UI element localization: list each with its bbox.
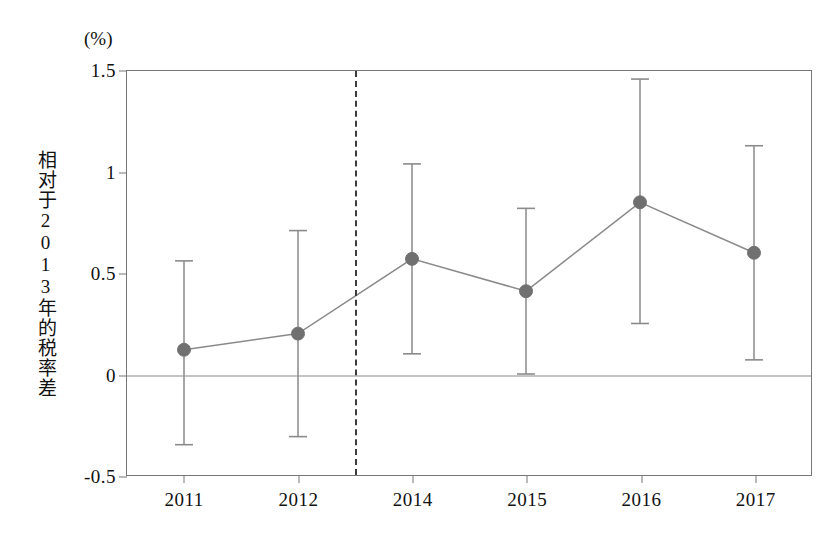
x-axis-tick-mark [298,475,299,483]
plot-area: 1.510.50-0.5201120122014201520162017 [126,70,812,476]
x-axis-tick-mark [184,475,185,483]
data-point-marker [178,343,191,356]
x-axis-tick-label: 2014 [393,489,433,511]
data-point-marker [634,196,647,209]
y-axis-tick-mark [119,477,127,478]
x-axis-tick-label: 2017 [736,489,776,511]
data-point-marker [748,246,761,259]
data-point-marker [406,252,419,265]
x-axis-tick-mark [755,475,756,483]
y-axis-tick-mark [119,375,127,376]
x-axis-tick-label: 2016 [622,489,662,511]
unit-annotation: (%) [84,28,112,50]
y-axis-tick-label: 0 [106,365,116,387]
y-axis-title: 相对于2013年的税率差 [24,150,58,398]
x-axis-tick-mark [527,475,528,483]
series-svg [127,71,811,475]
zero-reference-line [127,375,811,376]
x-axis-tick-mark [412,475,413,483]
y-axis-tick-mark [119,172,127,173]
data-point-marker [292,327,305,340]
x-axis-tick-label: 2011 [165,489,204,511]
y-axis-tick-mark [119,71,127,72]
y-axis-tick-mark [119,274,127,275]
y-axis-tick-label: -0.5 [84,466,116,488]
series-line [184,202,754,349]
y-axis-tick-label: 1.5 [91,60,116,82]
x-axis-tick-label: 2015 [507,489,547,511]
marker-group [178,196,761,356]
data-point-marker [520,285,533,298]
y-axis-tick-label: 0.5 [91,263,116,285]
y-axis-tick-label: 1 [106,162,116,184]
policy-cutoff-dashed-line [355,71,357,475]
error-bar-group [175,79,763,445]
figure-container: (%) 相对于2013年的税率差 1.510.50-0.520112012201… [0,0,828,535]
x-axis-tick-mark [641,475,642,483]
x-axis-tick-label: 2012 [279,489,319,511]
